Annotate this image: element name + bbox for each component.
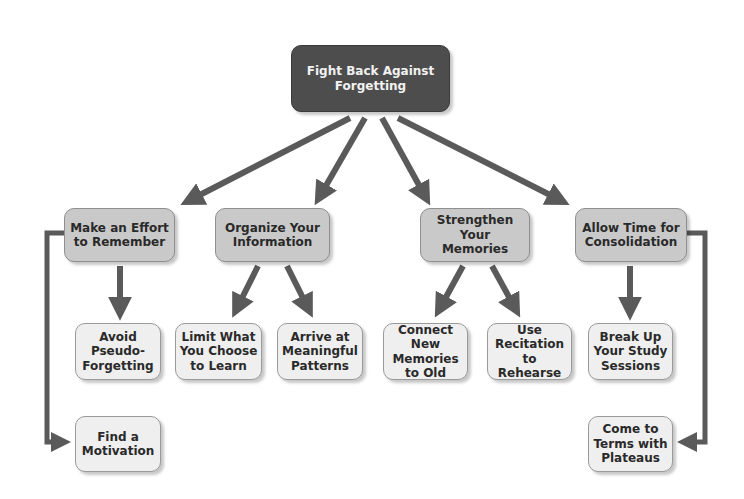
root-node-fight-back-against-forgetting: Fight Back Against Forgetting [291, 45, 450, 112]
arrow-strengthen-to-connect [440, 266, 463, 308]
leaf-node-label: Arrive at Meaningful Patterns [282, 330, 358, 373]
arrow-organize-to-arrive [287, 266, 308, 308]
branch-node-organize-information: Organize Your Information [215, 208, 330, 262]
leaf-node-label: Use Recitation to Rehearse [488, 323, 571, 381]
branch-node-make-an-effort: Make an Effort to Remember [64, 208, 175, 262]
leaf-node-use-recitation: Use Recitation to Rehearse [487, 323, 572, 380]
branch-node-label: Organize Your Information [225, 221, 320, 250]
arrow-organize-to-limit [237, 266, 258, 308]
elbow-effort-to-motivation [47, 233, 64, 442]
leaf-node-avoid-pseudo-forgetting: Avoid Pseudo- Forgetting [75, 323, 161, 380]
branch-node-allow-time-consolidation: Allow Time for Consolidation [575, 208, 687, 262]
leaf-node-come-to-terms-plateaus: Come to Terms with Plateaus [588, 416, 673, 472]
leaf-node-label: Come to Terms with Plateaus [594, 422, 668, 465]
leaf-node-label: Find a Motivation [82, 430, 155, 459]
branch-node-label: Strengthen Your Memories [421, 213, 529, 256]
leaf-node-label: Avoid Pseudo- Forgetting [82, 330, 153, 373]
leaf-node-label: Limit What You Choose to Learn [180, 330, 258, 373]
leaf-node-find-a-motivation: Find a Motivation [75, 416, 161, 472]
leaf-node-break-up-study-sessions: Break Up Your Study Sessions [588, 323, 673, 380]
leaf-node-label: Break Up Your Study Sessions [594, 330, 668, 373]
leaf-node-limit-what-you-learn: Limit What You Choose to Learn [175, 323, 262, 380]
leaf-node-connect-new-memories: Connect New Memories to Old [383, 323, 468, 380]
elbow-consolidation-to-plateaus [686, 233, 705, 442]
branch-node-label: Allow Time for Consolidation [582, 221, 680, 250]
leaf-node-arrive-at-patterns: Arrive at Meaningful Patterns [277, 323, 363, 380]
leaf-node-label: Connect New Memories to Old [384, 323, 467, 381]
branch-node-label: Make an Effort to Remember [70, 221, 169, 250]
branch-node-strengthen-memories: Strengthen Your Memories [420, 208, 530, 262]
arrow-strengthen-to-use [492, 266, 515, 308]
root-node-label: Fight Back Against Forgetting [307, 64, 434, 93]
